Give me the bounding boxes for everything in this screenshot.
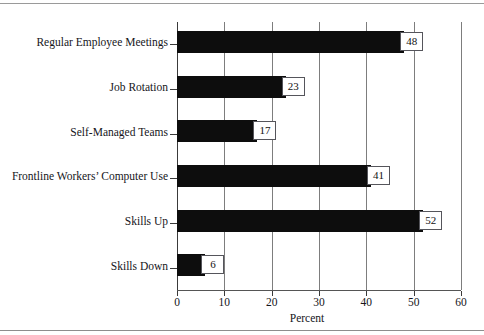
- category-label: Skills Up: [0, 215, 168, 227]
- chart-figure: Regular Employee MeetingsJob RotationSel…: [0, 0, 484, 335]
- x-tick-label: 20: [252, 296, 292, 308]
- bar: [177, 120, 257, 142]
- x-tick-label: 60: [441, 296, 481, 308]
- category-tick: [170, 178, 177, 179]
- bar-value-label: 52: [419, 211, 442, 230]
- bar-row: 23: [177, 67, 461, 109]
- category-label: Job Rotation: [0, 81, 168, 93]
- category-tick: [170, 89, 177, 90]
- bar-row: 41: [177, 156, 461, 198]
- category-tick: [170, 268, 177, 269]
- bar-value-label: 48: [400, 32, 423, 51]
- bar-row: 52: [177, 201, 461, 243]
- category-tick: [170, 44, 177, 45]
- bottom-divider-rule: [0, 330, 484, 331]
- category-tick: [170, 223, 177, 224]
- bar: [177, 31, 404, 53]
- bar-value-label: 17: [253, 121, 276, 140]
- bar-row: 17: [177, 111, 461, 153]
- gridline-60: [461, 22, 462, 290]
- category-tick: [170, 134, 177, 135]
- bar-value-label: 23: [282, 77, 305, 96]
- x-tick-label: 50: [394, 296, 434, 308]
- x-tick-label: 30: [299, 296, 339, 308]
- bar-row: 6: [177, 245, 461, 287]
- bar: [177, 165, 371, 187]
- top-divider-rule: [0, 3, 484, 4]
- bar: [177, 76, 286, 98]
- bar: [177, 210, 423, 232]
- bar-value-label: 41: [367, 166, 390, 185]
- bar-row: 48: [177, 22, 461, 64]
- bar-value-label: 6: [201, 255, 224, 274]
- category-label: Frontline Workers’ Computer Use: [0, 170, 168, 182]
- plot-area: 48231741526: [177, 22, 461, 290]
- category-label: Self-Managed Teams: [0, 126, 168, 138]
- x-axis-title-text: Percent: [160, 312, 324, 324]
- x-tick-label: 40: [346, 296, 386, 308]
- x-tick-label: 10: [204, 296, 244, 308]
- x-tick-label: 0: [157, 296, 197, 308]
- category-label: Skills Down: [0, 260, 168, 272]
- category-label: Regular Employee Meetings: [0, 36, 168, 48]
- x-axis-title: Percent: [0, 312, 484, 324]
